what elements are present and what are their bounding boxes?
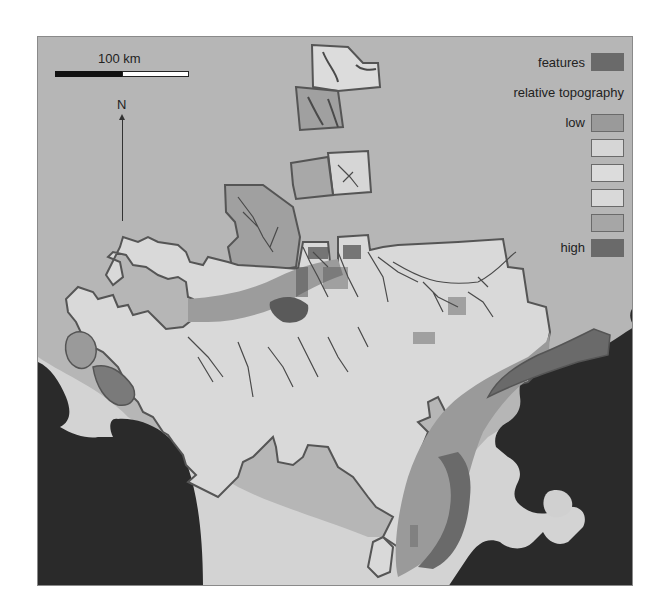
legend-topo-class-1: low bbox=[428, 111, 628, 134]
legend-topo-swatch-5 bbox=[591, 214, 624, 232]
west-lobe-low bbox=[66, 332, 97, 369]
legend-topo-class-5 bbox=[428, 211, 628, 234]
scale-bar: 100 km bbox=[55, 51, 189, 81]
legend-features-swatch bbox=[591, 53, 624, 71]
scale-bar-segment-black bbox=[55, 71, 122, 77]
legend-topo-label-low: low bbox=[565, 115, 585, 130]
legend-topo-class-6: high bbox=[428, 236, 628, 259]
legend-topo-label-high: high bbox=[560, 240, 585, 255]
legend-topo-swatch-1 bbox=[591, 114, 624, 132]
water-east-edge bbox=[630, 307, 633, 325]
legend-topo-class-4 bbox=[428, 186, 628, 209]
legend-features-label: features bbox=[538, 55, 585, 70]
north-arrow: N bbox=[114, 97, 130, 227]
legend-topo-swatch-4 bbox=[591, 189, 624, 207]
legend: features relative topography low high bbox=[428, 51, 628, 261]
nc-block-left bbox=[291, 157, 333, 199]
legend-features: features bbox=[428, 51, 628, 73]
north-arrow-shaft bbox=[122, 119, 123, 221]
north-label: N bbox=[117, 97, 126, 112]
map-frame: 100 km N features relative topography lo… bbox=[37, 36, 633, 586]
legend-topography-title: relative topography bbox=[428, 81, 628, 105]
legend-topo-swatch-3 bbox=[591, 164, 624, 182]
legend-topo-swatch-2 bbox=[591, 139, 624, 157]
legend-topo-class-2 bbox=[428, 136, 628, 159]
legend-topo-swatch-6 bbox=[591, 239, 624, 257]
north-block-upper bbox=[312, 45, 380, 91]
nc-block-right bbox=[328, 151, 371, 195]
scale-label: 100 km bbox=[98, 51, 141, 66]
legend-topo-class-3 bbox=[428, 161, 628, 184]
scale-bar-segment-white bbox=[122, 71, 189, 77]
nw-arm bbox=[225, 185, 300, 272]
